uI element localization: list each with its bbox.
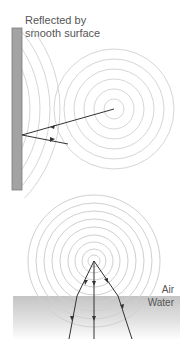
reflection-title-line1: Reflected by xyxy=(25,14,87,26)
incident-arrow-icon xyxy=(50,125,55,129)
reflection-title-line2: smooth surface xyxy=(25,27,100,39)
arrow-icon xyxy=(104,278,108,283)
air-label: Air xyxy=(162,284,175,295)
smooth-wall xyxy=(12,28,22,190)
incident-ray xyxy=(22,109,114,135)
refraction-diagram: Air Water xyxy=(13,195,180,340)
arrow-icon xyxy=(84,280,88,285)
arrow-icon xyxy=(92,281,96,286)
water-label: Water xyxy=(148,297,175,308)
diagram-canvas: Reflected by smooth surface Air Water xyxy=(0,0,180,360)
